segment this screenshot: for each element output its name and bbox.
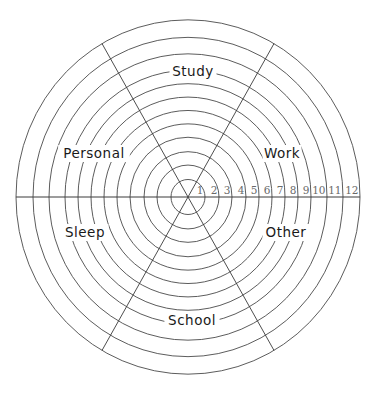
scale-tick-10: 10 [312, 184, 325, 196]
scale-tick-8: 8 [290, 184, 297, 196]
scale-tick-3: 3 [224, 184, 231, 196]
sector-personal: Personal [58, 145, 130, 162]
sector-label-personal: Personal [63, 145, 124, 161]
scale-tick-12: 12 [345, 184, 358, 196]
life-wheel-diagram: 123456789101112 Study Work Other School … [0, 0, 384, 395]
sector-label-study: Study [172, 63, 213, 79]
scale-tick-9: 9 [303, 184, 310, 196]
sector-label-school: School [168, 312, 216, 328]
sector-study: Study [170, 63, 217, 80]
scale-tick-4: 4 [238, 184, 245, 196]
sector-label-work: Work [264, 145, 300, 161]
scale-tick-2: 2 [211, 184, 218, 196]
scale-tick-5: 5 [251, 184, 258, 196]
sector-work: Work [263, 145, 302, 162]
scale-tick-7: 7 [277, 184, 284, 196]
scale-tick-11: 11 [328, 184, 341, 196]
sector-label-sleep: Sleep [65, 224, 105, 240]
sector-label-other: Other [266, 224, 307, 240]
scale-tick-labels: 123456789101112 [197, 184, 359, 196]
sector-sleep: Sleep [62, 224, 109, 241]
scale-tick-6: 6 [264, 184, 271, 196]
scale-tick-1: 1 [197, 184, 204, 196]
sector-school: School [164, 312, 219, 329]
sector-other: Other [263, 224, 310, 241]
